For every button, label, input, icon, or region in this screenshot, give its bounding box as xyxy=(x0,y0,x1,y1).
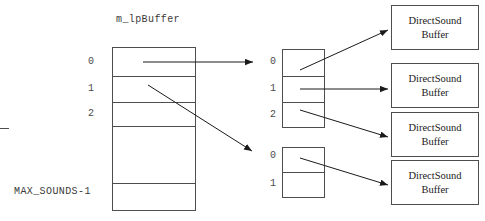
sub-array-2-table xyxy=(283,148,325,198)
diagram-canvas: m_lpBuffer MAX_SOUNDS-1 0 1 2 0 1 2 0 1 … xyxy=(0,0,485,221)
main-array-table xyxy=(113,48,196,211)
connector-layer xyxy=(0,0,485,221)
